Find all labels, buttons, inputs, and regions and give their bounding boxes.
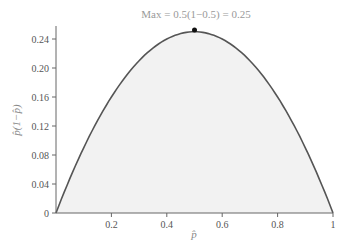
x-tick-label: 0.6 xyxy=(216,219,229,230)
x-tick-label: 0.2 xyxy=(105,219,118,230)
y-axis-label: p̂(1−p̂) xyxy=(10,104,23,137)
area-fill xyxy=(56,32,333,213)
chart: 00.040.080.120.160.200.24 0.20.40.60.81 … xyxy=(0,0,344,252)
y-tick-label: 0.04 xyxy=(32,179,50,190)
max-point-marker xyxy=(192,28,197,33)
y-tick-label: 0.16 xyxy=(32,92,50,103)
x-tick-label: 0.4 xyxy=(161,219,174,230)
x-tick-label: 0.8 xyxy=(271,219,284,230)
y-ticks: 00.040.080.120.160.200.24 xyxy=(32,34,57,219)
y-tick-label: 0 xyxy=(44,208,49,219)
y-tick-label: 0.12 xyxy=(32,121,50,132)
y-tick-label: 0.24 xyxy=(32,34,50,45)
x-tick-label: 1 xyxy=(331,219,336,230)
y-tick-label: 0.08 xyxy=(32,150,50,161)
x-axis-label: p̂ xyxy=(190,228,197,240)
max-annotation: Max = 0.5(1−0.5) = 0.25 xyxy=(141,8,251,21)
x-ticks: 0.20.40.60.81 xyxy=(105,213,335,230)
y-tick-label: 0.20 xyxy=(32,63,50,74)
